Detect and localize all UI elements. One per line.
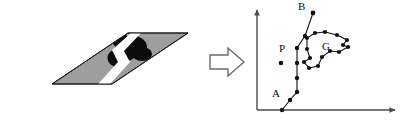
arrow-svg <box>200 0 252 124</box>
figure-container: A B P G <box>0 0 405 124</box>
loop-node <box>307 66 311 70</box>
path-node <box>280 108 284 112</box>
transform-arrow-panel <box>200 0 252 124</box>
loop-node <box>313 31 317 35</box>
loop-node <box>323 30 327 34</box>
path-node <box>295 76 299 80</box>
loop-node <box>305 47 309 51</box>
label-A: A <box>272 87 280 99</box>
implies-arrow-icon <box>210 48 244 76</box>
series-path-A-to-B <box>280 11 316 113</box>
loop-node <box>345 38 349 42</box>
loop-node <box>320 55 324 59</box>
label-B: B <box>298 0 305 12</box>
graph-plot-panel: A B P G <box>250 0 405 124</box>
terrain-map-panel <box>0 0 200 124</box>
isolated-point-P <box>279 61 284 66</box>
loop-node <box>305 36 309 40</box>
label-G: G <box>322 40 330 52</box>
loop-node <box>316 64 320 68</box>
loop-node <box>337 50 341 54</box>
label-P: P <box>279 42 285 54</box>
path-node <box>295 90 299 94</box>
obstacle-small-left <box>68 40 81 55</box>
path-node <box>295 46 299 50</box>
loop-node <box>346 45 350 49</box>
graph-plot-svg: A B P G <box>250 0 405 124</box>
terrain-map-svg <box>0 0 200 124</box>
loop-node <box>335 33 339 37</box>
loop-node <box>308 56 312 60</box>
path-node <box>288 98 292 102</box>
path-node-B <box>311 11 316 16</box>
path-node <box>295 61 299 65</box>
loop-node <box>302 60 306 64</box>
loop-node <box>341 43 345 47</box>
